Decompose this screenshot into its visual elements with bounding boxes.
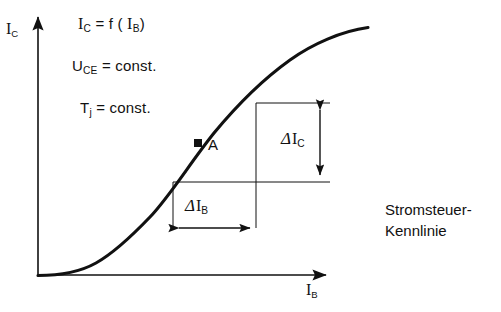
delta-ic-symbol: Δ bbox=[281, 129, 292, 148]
operating-point-marker bbox=[194, 139, 202, 147]
delta-ib-label: ΔIB bbox=[185, 196, 208, 216]
formula1-lhs-main: I bbox=[78, 15, 84, 32]
formula2-sub: CE bbox=[83, 65, 98, 76]
formula2-rest: = const. bbox=[102, 57, 157, 74]
formula2-main: U bbox=[72, 57, 83, 74]
formula-vce-constant: UCE = const. bbox=[72, 57, 157, 74]
formula1-close: ) bbox=[140, 15, 145, 32]
figure-caption-line1: Stromsteuer- bbox=[385, 199, 472, 220]
delta-ic-label: ΔIC bbox=[281, 129, 305, 149]
delta-ib-symbol: Δ bbox=[185, 196, 196, 215]
formula-transfer-function: IC = f ( IB) bbox=[78, 15, 145, 33]
x-axis-label: IB bbox=[306, 281, 318, 299]
diagram-canvas: IC IB IC = f ( IB) UCE = const. Tj = con… bbox=[0, 0, 501, 312]
formula3-rest: = const. bbox=[96, 99, 151, 116]
formula1-arg-sub: B bbox=[133, 23, 140, 34]
formula1-arg-main: I bbox=[127, 15, 133, 32]
y-axis-label: IC bbox=[6, 20, 18, 38]
formula3-sub: j bbox=[89, 107, 91, 118]
operating-point-label: A bbox=[208, 136, 218, 153]
delta-ic-sub: C bbox=[297, 138, 304, 149]
figure-caption-line2: Kennlinie bbox=[385, 220, 472, 241]
formula-tj-constant: Tj = const. bbox=[80, 99, 151, 116]
y-axis-label-sub: C bbox=[11, 28, 18, 39]
characteristic-curve-plot bbox=[0, 0, 501, 312]
figure-caption: Stromsteuer- Kennlinie bbox=[385, 199, 472, 241]
delta-ib-sub: B bbox=[201, 205, 208, 216]
formula1-equals: = f ( bbox=[95, 15, 122, 32]
formula3-main: T bbox=[80, 99, 89, 116]
x-axis-label-sub: B bbox=[311, 289, 317, 300]
formula1-lhs-sub: C bbox=[84, 23, 92, 34]
